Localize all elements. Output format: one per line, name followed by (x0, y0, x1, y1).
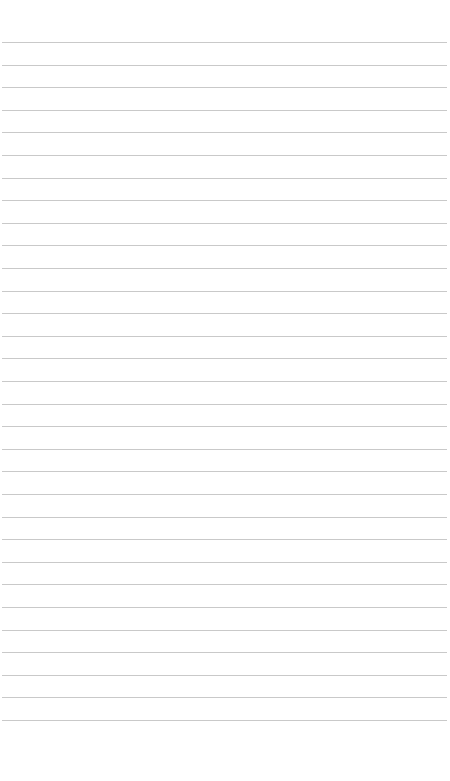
ruled-line (2, 404, 447, 405)
ruled-line (2, 697, 447, 698)
ruled-line (2, 155, 447, 156)
ruled-line (2, 268, 447, 269)
ruled-line (2, 65, 447, 66)
ruled-line (2, 426, 447, 427)
ruled-line (2, 494, 447, 495)
ruled-line (2, 87, 447, 88)
ruled-line (2, 562, 447, 563)
ruled-line (2, 720, 447, 721)
ruled-line (2, 223, 447, 224)
ruled-line (2, 539, 447, 540)
ruled-line (2, 449, 447, 450)
ruled-line (2, 358, 447, 359)
ruled-line (2, 381, 447, 382)
ruled-line (2, 607, 447, 608)
ruled-line (2, 42, 447, 43)
ruled-line (2, 200, 447, 201)
lined-notepad-page (0, 0, 450, 781)
ruled-line (2, 110, 447, 111)
ruled-line (2, 584, 447, 585)
ruled-line (2, 517, 447, 518)
ruled-line (2, 652, 447, 653)
ruled-line (2, 132, 447, 133)
ruled-line (2, 313, 447, 314)
ruled-line (2, 630, 447, 631)
ruled-line (2, 471, 447, 472)
ruled-line (2, 245, 447, 246)
ruled-line (2, 675, 447, 676)
ruled-line (2, 178, 447, 179)
ruled-line (2, 291, 447, 292)
ruled-line (2, 336, 447, 337)
